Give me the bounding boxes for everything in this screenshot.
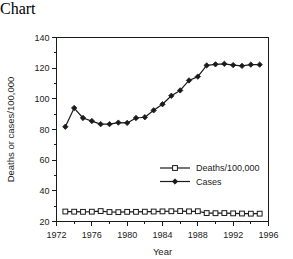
data-point-s2: [116, 120, 121, 125]
y-tick-label: 120: [34, 63, 49, 73]
data-point-s1: [240, 211, 245, 216]
data-point-s2: [63, 124, 68, 129]
data-point-s1: [160, 209, 165, 214]
x-tick-label: 1976: [82, 230, 102, 240]
data-point-s1: [204, 211, 209, 216]
data-point-s1: [187, 209, 192, 214]
data-point-s2: [257, 62, 262, 67]
data-point-s2: [213, 62, 218, 67]
chart-figure: 2040608010012014019721976198019841988199…: [0, 18, 293, 259]
data-point-s2: [248, 62, 253, 67]
data-point-s1: [72, 209, 77, 214]
legend-label-1: Deaths/100,000: [196, 163, 260, 173]
data-point-s1: [89, 209, 94, 214]
y-tick-label: 40: [39, 186, 49, 196]
data-point-s2: [98, 121, 103, 126]
data-point-s2: [89, 118, 94, 123]
data-point-s1: [63, 209, 68, 214]
legend-marker-2: [172, 179, 177, 184]
data-point-s2: [133, 115, 138, 120]
data-point-s1: [178, 209, 183, 214]
y-tick-label: 60: [39, 155, 49, 165]
data-point-s1: [142, 209, 147, 214]
data-point-s2: [124, 120, 129, 125]
data-point-s1: [231, 211, 236, 216]
data-point-s1: [98, 209, 103, 214]
data-point-s2: [230, 62, 235, 67]
data-point-s2: [222, 61, 227, 66]
data-point-s2: [239, 63, 244, 68]
series-group: [63, 61, 263, 216]
data-point-s1: [116, 210, 121, 215]
legend-marker-1: [173, 166, 178, 171]
legend-label-2: Cases: [196, 177, 222, 187]
y-tick-label: 80: [39, 125, 49, 135]
x-tick-label: 1992: [223, 230, 243, 240]
y-tick-label: 140: [34, 33, 49, 43]
x-tick-label: 1984: [152, 230, 172, 240]
data-point-s1: [222, 211, 227, 216]
data-point-s1: [257, 211, 262, 216]
chart-legend: Deaths/100,000Cases: [160, 163, 260, 187]
series-line-2: [65, 64, 259, 127]
x-tick-label: 1988: [188, 230, 208, 240]
data-point-s1: [195, 209, 200, 214]
data-point-s1: [81, 209, 86, 214]
data-point-s1: [169, 209, 174, 214]
y-tick-label: 20: [39, 217, 49, 227]
y-tick-label: 100: [34, 94, 49, 104]
data-point-s1: [151, 209, 156, 214]
data-point-s2: [107, 121, 112, 126]
data-point-s1: [125, 209, 130, 214]
x-tick-label: 1996: [258, 230, 278, 240]
data-point-s1: [134, 209, 139, 214]
data-point-s1: [107, 210, 112, 215]
chart-svg: 2040608010012014019721976198019841988199…: [0, 18, 293, 259]
data-point-s1: [248, 211, 253, 216]
y-axis-title: Deaths or cases/100,000: [5, 77, 16, 183]
x-tick-label: 1972: [46, 230, 66, 240]
data-point-s1: [213, 211, 218, 216]
x-axis-title: Year: [153, 246, 172, 257]
x-tick-label: 1980: [117, 230, 137, 240]
